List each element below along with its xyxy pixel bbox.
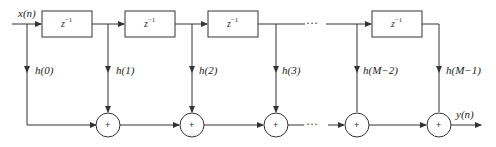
svg-text:+: + <box>189 120 194 130</box>
adder-3: + <box>264 113 288 137</box>
adder-2: + <box>180 113 204 137</box>
tap-label-1: h(1) <box>116 64 135 77</box>
tap-label-2: h(2) <box>199 64 218 77</box>
tap-label-0: h(0) <box>35 64 54 77</box>
adder-m-2: + <box>345 113 369 137</box>
tap-label-m-2: h(M−2) <box>363 64 398 77</box>
bottom-ellipsis: ··· <box>306 117 318 131</box>
svg-text:+: + <box>273 120 278 130</box>
top-ellipsis: ··· <box>306 16 318 30</box>
delay-block-last: z−1 <box>372 11 422 37</box>
tap-label-m-1: h(M−1) <box>446 64 481 77</box>
svg-text:+: + <box>436 120 441 130</box>
fir-filter-diagram: x(n) z−1 z−1 z−1 z−1 ··· <box>0 0 496 147</box>
svg-text:+: + <box>105 120 110 130</box>
adder-m-1: + <box>427 113 451 137</box>
adder-1: + <box>96 113 120 137</box>
tap-label-3: h(3) <box>282 64 301 77</box>
svg-text:+: + <box>354 120 359 130</box>
output-label: y(n) <box>455 108 474 121</box>
input-label: x(n) <box>17 7 36 20</box>
delay-block-2: z−1 <box>125 11 175 37</box>
delay-block-3: z−1 <box>208 11 258 37</box>
delay-block-1: z−1 <box>42 11 92 37</box>
